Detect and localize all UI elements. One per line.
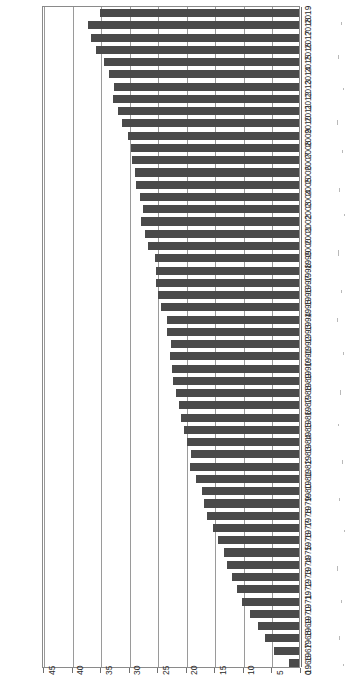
bar-fill <box>224 548 299 556</box>
value-tick-20 <box>186 668 187 673</box>
scan-speck <box>342 460 343 464</box>
bar-fill <box>140 193 299 201</box>
bar-1972 <box>237 585 298 593</box>
bar-fill <box>232 573 298 581</box>
bar-2010 <box>122 119 298 127</box>
value-tick-label-35: 35 <box>104 666 114 675</box>
bar-fill <box>135 168 298 176</box>
value-tick-label-5: 5 <box>275 670 285 675</box>
bar-1996 <box>158 291 299 299</box>
value-tick-15 <box>214 668 215 673</box>
bar-1969 <box>258 622 298 630</box>
scan-speck <box>339 188 340 192</box>
bar-fill <box>145 230 298 238</box>
value-tick-25 <box>157 668 158 673</box>
bar-1999 <box>155 254 299 262</box>
scan-speck <box>339 498 340 501</box>
bar-fill <box>88 21 299 29</box>
bar-fill <box>132 156 299 164</box>
bar-fill <box>258 622 298 630</box>
bar-fill <box>100 9 299 17</box>
value-tick-5 <box>271 668 272 673</box>
bar-1971 <box>242 598 299 606</box>
bar-2012 <box>113 95 299 103</box>
bar-fill <box>181 414 299 422</box>
bar-1986 <box>181 414 299 422</box>
bar-1997 <box>156 279 299 287</box>
bar-1976 <box>218 536 298 544</box>
bar-1974 <box>227 561 299 569</box>
bar-fill <box>167 328 299 336</box>
bar-fill <box>187 438 299 446</box>
bar-fill <box>171 340 299 348</box>
scan-speck <box>341 22 342 25</box>
bar-fill <box>156 279 299 287</box>
scan-edge-artifacts <box>335 0 357 698</box>
bar-fill <box>237 585 298 593</box>
bar-fill <box>155 254 299 262</box>
bar-1994 <box>167 316 298 324</box>
bar-1984 <box>187 438 299 446</box>
bar-1998 <box>156 267 299 275</box>
bar-fill <box>170 352 299 360</box>
bar-2016 <box>96 46 298 54</box>
plot-area <box>42 6 300 668</box>
scan-speck <box>341 290 342 293</box>
bar-fill <box>179 401 299 409</box>
bar-fill <box>167 316 298 324</box>
bar-fill <box>128 132 299 140</box>
bar-fill <box>184 426 299 434</box>
bar-fill <box>156 267 299 275</box>
scan-speck <box>338 55 339 59</box>
bar-fill <box>207 512 298 520</box>
scan-speck <box>343 664 344 666</box>
value-tick-45 <box>43 668 44 673</box>
bar-fill <box>148 242 298 250</box>
bar-1988 <box>176 389 299 397</box>
scan-speck <box>341 600 342 603</box>
bar-1973 <box>232 573 298 581</box>
bar-2019 <box>100 9 299 17</box>
bar-fill <box>289 659 298 667</box>
bar-1983 <box>191 450 298 458</box>
bar-fill <box>172 365 299 373</box>
bar-fill <box>274 647 299 655</box>
bar-fill <box>113 95 299 103</box>
bar-1970 <box>250 610 298 618</box>
bar-fill <box>143 205 298 213</box>
bar-fill <box>242 598 299 606</box>
bar-1990 <box>172 365 299 373</box>
bar-fill <box>104 58 299 66</box>
bar-1978 <box>207 512 298 520</box>
bar-fill <box>227 561 299 569</box>
bar-1995 <box>161 303 298 311</box>
bar-2005 <box>136 181 298 189</box>
value-tick-label-15: 15 <box>218 666 228 675</box>
bar-fill <box>109 70 299 78</box>
bar-1993 <box>167 328 299 336</box>
bar-1968 <box>265 634 298 642</box>
bar-1981 <box>196 475 298 483</box>
scan-speck <box>339 636 340 640</box>
bar-1991 <box>170 352 299 360</box>
bar-2002 <box>141 217 298 225</box>
bar-fill <box>158 291 299 299</box>
bar-fill <box>191 450 298 458</box>
scan-speck <box>337 120 338 125</box>
bar-2011 <box>118 107 298 115</box>
bar-1975 <box>224 548 299 556</box>
bar-1966 <box>289 659 298 667</box>
bar-fill <box>96 46 298 54</box>
value-tick-label-40: 40 <box>75 666 85 675</box>
bar-2009 <box>128 132 299 140</box>
category-axis: 2019201820172016201520142013201220112010… <box>301 0 335 698</box>
bar-1989 <box>173 377 298 385</box>
value-tick-label-30: 30 <box>132 666 142 675</box>
bar-fill <box>202 487 298 495</box>
bar-2015 <box>104 58 299 66</box>
bar-2004 <box>140 193 299 201</box>
bar-2001 <box>145 230 298 238</box>
bar-fill <box>122 119 298 127</box>
scan-speck <box>344 530 345 532</box>
bar-fill <box>114 83 298 91</box>
